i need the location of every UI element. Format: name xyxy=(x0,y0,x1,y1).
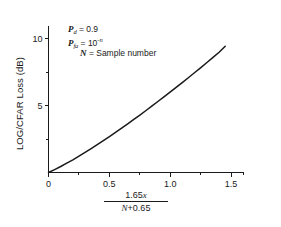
annotation-pd-value: 0.9 xyxy=(86,24,98,34)
x-axis-tick-label: 0.5 xyxy=(103,179,116,189)
numerator-constant: 1.65 xyxy=(125,190,143,200)
x-axis-label-numerator: 1.65x xyxy=(104,190,168,201)
y-axis-tick-label: 5 xyxy=(38,101,43,111)
annotation-pd-equals: = xyxy=(77,24,87,34)
annotation-n-value: Sample number xyxy=(96,48,156,58)
denominator-rest: +0.65 xyxy=(128,203,151,213)
annotation-n-equals: = xyxy=(87,48,97,58)
chart-tick-marks xyxy=(45,39,244,177)
x-axis-tick-label: 1.5 xyxy=(225,179,238,189)
data-series-line xyxy=(49,46,226,172)
annotation-pfa-exponent: -n xyxy=(97,36,102,43)
x-axis-tick-label: 1.0 xyxy=(164,179,177,189)
numerator-variable: x xyxy=(143,190,147,200)
annotation-pfa: Pfa = 10-n xyxy=(68,35,156,47)
x-axis-tick-label: 0 xyxy=(46,179,51,189)
x-axis-label-denominator: N+0.65 xyxy=(104,201,168,213)
y-axis-tick-label: 10 xyxy=(33,34,43,44)
annotation-pd: Pd = 0.9 xyxy=(68,23,156,35)
x-axis-label: 1.65x N+0.65 xyxy=(104,190,168,214)
chart-data-curve xyxy=(49,46,226,172)
annotation-n-definition: N = Sample number xyxy=(68,47,156,59)
chart-annotations: Pd = 0.9 Pfa = 10-n N = Sample number xyxy=(68,23,156,59)
figure-container: 00.51.01.5510 LOG/CFAR Loss (dB) 1.65x N… xyxy=(0,0,281,227)
y-axis-label: LOG/CFAR Loss (dB) xyxy=(14,39,25,169)
